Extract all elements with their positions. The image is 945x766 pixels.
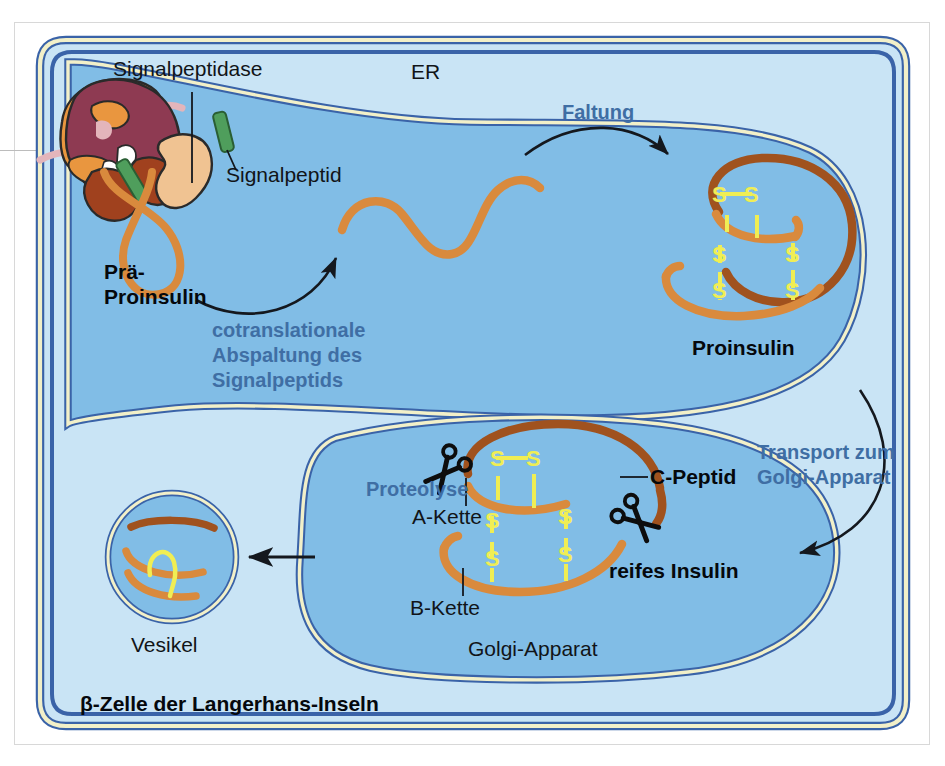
secretory-vesicle <box>108 493 236 621</box>
label-vesikel: Vesikel <box>131 633 198 658</box>
label-reifes-insulin: reifes Insulin <box>609 559 739 584</box>
sulfur-label: S <box>712 182 727 207</box>
label-cell-caption: β-Zelle der Langerhans-Inseln <box>80 692 379 717</box>
label-cotranslational-line2: Abspaltung des <box>212 344 362 368</box>
sulfur-label: S <box>712 278 727 303</box>
label-golgi-apparat: Golgi-Apparat <box>468 637 598 662</box>
label-a-kette: A-Kette <box>412 505 482 530</box>
label-faltung: Faltung <box>562 101 634 125</box>
label-er: ER <box>411 60 440 85</box>
sulfur-label: S <box>712 242 727 267</box>
sulfur-label: S <box>558 542 573 567</box>
sulfur-label: S <box>558 504 573 529</box>
sulfur-label: S <box>526 446 541 471</box>
sulfur-label: S <box>785 242 800 267</box>
label-cotranslational-line1: cotranslationale <box>212 319 365 343</box>
label-proinsulin: Proinsulin <box>692 336 795 361</box>
label-signalpeptidase: Signalpeptidase <box>113 57 262 82</box>
label-proteolyse: Proteolyse <box>366 478 468 502</box>
figure-root: S S S S S S S S S S S S Signalpeptidase … <box>0 0 945 766</box>
label-transport-line1: Transport zum <box>757 441 895 465</box>
sulfur-label: S <box>485 546 500 571</box>
label-prae-proinsulin-line1: Prä- <box>104 260 145 285</box>
label-cotranslational-line3: Signalpeptids <box>212 369 343 393</box>
label-prae-proinsulin-line2: Proinsulin <box>104 285 207 310</box>
sulfur-label: S <box>744 182 759 207</box>
proinsulin-a-chain-hook <box>795 220 799 237</box>
sulfur-label: S <box>490 446 505 471</box>
label-b-kette: B-Kette <box>410 596 480 621</box>
sulfur-label: S <box>485 508 500 533</box>
label-signalpeptid: Signalpeptid <box>226 163 342 188</box>
sulfur-label: S <box>785 278 800 303</box>
label-transport-line2: Golgi-Apparat <box>757 466 890 490</box>
label-c-peptid: C-Peptid <box>650 465 736 490</box>
